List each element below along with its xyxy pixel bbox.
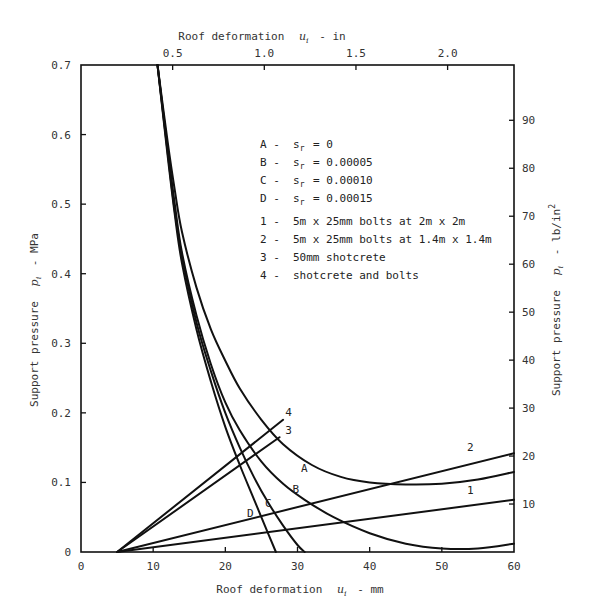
curve-label-1: 1 <box>467 484 474 497</box>
curve-label-3: 3 <box>285 424 292 437</box>
x2-tick-label: 1.5 <box>346 47 366 60</box>
legend-key: C - <box>260 174 280 187</box>
legend-label: 5m x 25mm bolts at 2m x 2m <box>293 215 466 228</box>
y2-tick-label: 60 <box>522 258 535 271</box>
x2-axis-title: Roof deformation ui - in <box>178 30 345 46</box>
x-tick-label: 10 <box>147 560 160 573</box>
curve-label-a: A <box>301 462 308 475</box>
legend-item: C -sr = 0.00010 <box>260 174 373 189</box>
legend-label: shotcrete and bolts <box>293 269 419 282</box>
curve-label-4: 4 <box>285 406 292 419</box>
y-tick-label: 0 <box>64 546 71 559</box>
legend-item: 1 -5m x 25mm bolts at 2m x 2m <box>260 215 466 228</box>
y2-tick-label: 40 <box>522 354 535 367</box>
y-axis-title: Support pressure pi - MPa <box>28 233 44 407</box>
x-tick-label: 50 <box>435 560 448 573</box>
legend-key: 3 - <box>260 251 280 264</box>
legend-label: sr = 0.00005 <box>293 156 373 171</box>
x-tick-label: 60 <box>507 560 520 573</box>
legend-label: sr = 0.00015 <box>293 192 373 207</box>
y2-tick-label: 70 <box>522 210 535 223</box>
chart: 010203040506000.10.20.30.40.50.60.70.51.… <box>0 0 594 616</box>
legend-key: 1 - <box>260 215 280 228</box>
curve-label-c: C <box>265 497 272 510</box>
y-tick-label: 0.2 <box>51 407 71 420</box>
x-tick-label: 30 <box>291 560 304 573</box>
y2-axis-title: Support pressure pi - lb/in2 <box>548 204 566 396</box>
legend-key: A - <box>260 138 280 151</box>
y-tick-label: 0.6 <box>51 129 71 142</box>
y-tick-label: 0.7 <box>51 59 71 72</box>
y-tick-label: 0.4 <box>51 268 71 281</box>
legend-item: 2 -5m x 25mm bolts at 1.4m x 1.4m <box>260 233 492 246</box>
x-tick-label: 20 <box>219 560 232 573</box>
x-tick-label: 40 <box>363 560 376 573</box>
curve-c <box>158 65 305 552</box>
legend-item: 3 -50mm shotcrete <box>260 251 386 264</box>
legend-key: 2 - <box>260 233 280 246</box>
x-tick-label: 0 <box>78 560 85 573</box>
y2-tick-label: 10 <box>522 498 535 511</box>
legend-item: 4 -shotcrete and bolts <box>260 269 419 282</box>
y-tick-label: 0.3 <box>51 337 71 350</box>
y-tick-label: 0.5 <box>51 198 71 211</box>
legend: A -sr = 0B -sr = 0.00005C -sr = 0.00010D… <box>260 138 492 282</box>
legend-item: D -sr = 0.00015 <box>260 192 373 207</box>
curve-label-d: D <box>247 507 254 520</box>
x2-tick-label: 0.5 <box>163 47 183 60</box>
curve-labels: ABCD1234 <box>247 406 474 520</box>
x2-tick-label: 1.0 <box>254 47 274 60</box>
y2-tick-label: 80 <box>522 162 535 175</box>
legend-key: 4 - <box>260 269 280 282</box>
legend-key: B - <box>260 156 280 169</box>
curve-label-b: B <box>292 483 299 496</box>
legend-label: sr = 0.00010 <box>293 174 373 189</box>
curve-d <box>158 65 276 552</box>
legend-item: B -sr = 0.00005 <box>260 156 373 171</box>
y2-tick-label: 50 <box>522 306 535 319</box>
y2-tick-label: 30 <box>522 402 535 415</box>
legend-label: 5m x 25mm bolts at 1.4m x 1.4m <box>293 233 492 246</box>
legend-key: D - <box>260 192 280 205</box>
legend-item: A -sr = 0 <box>260 138 333 153</box>
legend-label: sr = 0 <box>293 138 333 153</box>
x-axis-title: Roof deformation ui - mm <box>216 583 384 599</box>
y-tick-label: 0.1 <box>51 476 71 489</box>
legend-label: 50mm shotcrete <box>293 251 386 264</box>
y2-tick-label: 90 <box>522 114 535 127</box>
curve-label-2: 2 <box>467 441 474 454</box>
y2-tick-label: 20 <box>522 450 535 463</box>
x2-tick-label: 2.0 <box>438 47 458 60</box>
